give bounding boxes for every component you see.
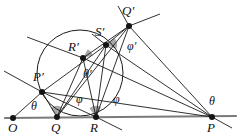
segment-R-prime-to-Q bbox=[57, 58, 83, 117]
point-label-o: O bbox=[8, 121, 17, 134]
segment-P-ray-lower-right bbox=[212, 117, 232, 128]
vertex-q-prime bbox=[126, 23, 132, 29]
segment-R-prime-to-P bbox=[83, 58, 212, 117]
vertex-r-prime bbox=[80, 55, 86, 61]
vertex-p-prime bbox=[39, 89, 45, 95]
vertex-s-prime bbox=[103, 42, 109, 48]
baseline-OP bbox=[5, 116, 236, 118]
point-label-r: R bbox=[90, 121, 98, 134]
segment-R-to-lower-right-ray bbox=[96, 117, 122, 130]
point-label-q: Q bbox=[51, 121, 60, 134]
angle-label-phi-at-R: φ bbox=[113, 93, 120, 105]
point-label-r-prime: R′ bbox=[68, 40, 79, 53]
angle-label-phi-at-Q: φ bbox=[76, 93, 83, 105]
point-label-p: P bbox=[207, 121, 215, 134]
segment-P-prime-to-P bbox=[42, 92, 212, 117]
angle-label-theta-prime-at-R-prime: θ′ bbox=[83, 68, 92, 80]
point-label-s-prime: S′ bbox=[95, 25, 104, 38]
angle-label-phi-prime-at-Q-prime: φ′ bbox=[127, 40, 136, 52]
angle-label-theta-at-P: θ bbox=[209, 95, 215, 107]
segment-Q-prime-to-P bbox=[129, 26, 212, 117]
point-label-p-prime: P′ bbox=[33, 70, 44, 83]
segment-S-prime-to-R bbox=[96, 45, 106, 117]
point-label-q-prime: Q′ bbox=[122, 4, 134, 17]
segment-O-to-P-prime bbox=[13, 92, 42, 118]
angle-label-theta-at-P-prime: θ bbox=[31, 100, 37, 112]
